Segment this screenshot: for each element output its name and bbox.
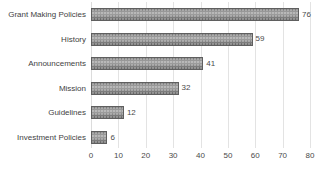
plot-area: 76 59 41 32 12 6 xyxy=(91,2,310,148)
x-tick-label: 30 xyxy=(169,150,178,162)
x-tick-label: 40 xyxy=(196,150,205,162)
bar-series: 76 59 41 32 12 6 xyxy=(91,2,310,148)
bar-history[interactable] xyxy=(91,33,253,46)
x-tick-label: 50 xyxy=(223,150,232,162)
category-label: Guidelines xyxy=(48,106,86,119)
category-label: Grant Making Policies xyxy=(8,8,86,21)
bar-announcements[interactable] xyxy=(91,57,203,70)
x-tick-label: 0 xyxy=(89,150,93,162)
x-tick-label: 10 xyxy=(114,150,123,162)
category-label: Announcements xyxy=(28,57,86,70)
bar-value-label: 59 xyxy=(256,35,265,43)
bar-grant-making-policies[interactable] xyxy=(91,8,299,21)
x-axis: 0 10 20 30 40 50 60 70 80 xyxy=(91,150,310,164)
bar-guidelines[interactable] xyxy=(91,106,124,119)
x-tick-label: 20 xyxy=(141,150,150,162)
bar-mission[interactable] xyxy=(91,82,179,95)
bar-investment-policies[interactable] xyxy=(91,131,107,144)
x-tick-label: 80 xyxy=(306,150,315,162)
bar-value-label: 12 xyxy=(127,109,136,117)
bar-value-label: 41 xyxy=(206,60,215,68)
bar-value-label: 32 xyxy=(182,84,191,92)
gridline-80 xyxy=(310,2,311,148)
category-axis: Grant Making Policies History Announceme… xyxy=(0,2,86,148)
x-tick-label: 70 xyxy=(278,150,287,162)
category-label: Investment Policies xyxy=(17,131,86,144)
bar-value-label: 6 xyxy=(110,134,114,142)
bar-chart: Grant Making Policies History Announceme… xyxy=(0,0,326,178)
bar-value-label: 76 xyxy=(302,11,311,19)
category-label: History xyxy=(61,33,86,46)
x-tick-label: 60 xyxy=(251,150,260,162)
category-label: Mission xyxy=(59,82,86,95)
